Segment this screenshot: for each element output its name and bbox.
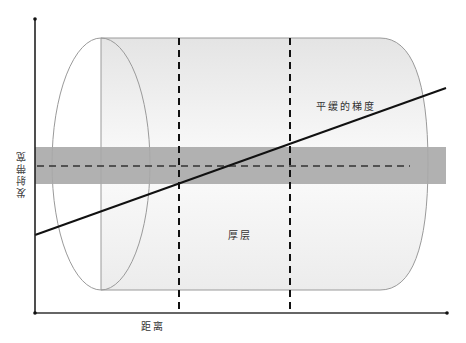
x-axis-end-dot — [445, 311, 449, 315]
y-axis-label: 发射带宽 — [14, 150, 29, 198]
y-axis-end-dot — [33, 17, 37, 21]
origin-dot — [33, 311, 37, 315]
gradient-label: 平缓的梯度 — [316, 98, 376, 113]
thick-layer-label: 厚层 — [228, 227, 252, 242]
emission-band — [35, 147, 446, 184]
diagram-canvas — [0, 0, 466, 343]
x-axis-label: 距离 — [141, 318, 165, 333]
